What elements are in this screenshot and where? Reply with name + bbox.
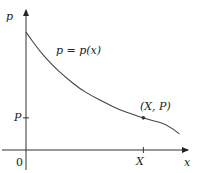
origin-label: 0 — [16, 156, 23, 169]
point-X-P — [142, 116, 146, 120]
chart: p x p = p(x) 0 P X (X, P) — [0, 0, 197, 173]
y-tick-label: P — [13, 111, 22, 124]
curve-label: p = p(x) — [56, 44, 101, 57]
point-label: (X, P) — [140, 100, 171, 113]
x-axis-label: x — [184, 156, 191, 169]
x-tick-label: X — [135, 155, 145, 168]
curve-p-of-x — [26, 32, 179, 134]
y-axis-label: p — [6, 10, 13, 23]
